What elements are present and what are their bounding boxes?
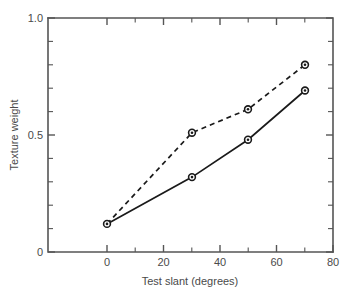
x-tick-label-40: 40	[214, 256, 226, 268]
data-point	[189, 129, 196, 136]
data-point	[245, 106, 252, 113]
y-tick-label-0_5: 0.5	[28, 129, 43, 141]
x-tick-label-60: 60	[270, 256, 282, 268]
chart-figure: 0 0.5 1.0 0 20 40 60 80 Test slant (degr…	[0, 0, 353, 292]
data-point	[104, 221, 111, 228]
data-point	[302, 61, 309, 68]
y-tick-label-0: 0	[37, 246, 43, 258]
y-tick-label-1_0: 1.0	[28, 12, 43, 24]
data-point	[245, 136, 252, 143]
data-point	[189, 174, 196, 181]
x-tick-label-20: 20	[157, 256, 169, 268]
chart-background	[0, 0, 353, 292]
x-tick-label-80: 80	[327, 256, 339, 268]
data-point	[302, 87, 309, 94]
y-axis-title: Texture weight	[8, 100, 20, 171]
line-chart: 0 0.5 1.0 0 20 40 60 80 Test slant (degr…	[0, 0, 353, 292]
x-axis-title: Test slant (degrees)	[142, 275, 239, 287]
x-tick-label-0: 0	[104, 256, 110, 268]
